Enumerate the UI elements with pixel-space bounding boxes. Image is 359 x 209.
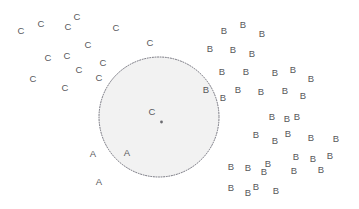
data-point-b: B [300, 90, 307, 101]
data-point-b: B [318, 164, 325, 175]
data-point-b: B [272, 135, 279, 146]
data-point-b: B [308, 73, 315, 84]
data-point-b: B [253, 129, 260, 140]
data-point-b: B [308, 132, 315, 143]
data-point-b: B [245, 187, 252, 198]
data-point-c: C [112, 22, 119, 33]
data-point-c: C [64, 21, 71, 32]
data-point-b: B [269, 111, 276, 122]
data-point-b: B [219, 66, 226, 77]
data-point-b: B [245, 162, 252, 173]
data-point-b: B [259, 28, 266, 39]
data-point-c: C [99, 57, 106, 68]
data-point-b: B [243, 66, 250, 77]
data-point-b: B [235, 84, 242, 95]
data-point-b: B [230, 44, 237, 55]
data-point-b: B [249, 48, 256, 59]
data-point-b: B [228, 182, 235, 193]
data-point-b: B [284, 113, 291, 124]
data-point-b: B [294, 111, 301, 122]
data-point-b: B [327, 150, 334, 161]
scatter-plot-canvas: AAABBBBBBBBBBBBBBBBBBBBBBBBBBBBBBBBBBBBB… [0, 0, 359, 209]
data-point-c: C [44, 52, 51, 63]
data-point-c: C [29, 73, 36, 84]
data-point-b: B [253, 181, 260, 192]
data-point-b: B [203, 84, 210, 95]
region-center-dot [160, 121, 163, 124]
data-point-b: B [290, 64, 297, 75]
data-point-b: B [273, 185, 280, 196]
data-point-c: C [63, 50, 70, 61]
data-point-b: B [258, 86, 265, 97]
data-point-b: B [220, 92, 227, 103]
data-point-c: C [75, 64, 82, 75]
data-point-b: B [333, 133, 340, 144]
data-point-c: C [148, 106, 155, 117]
data-point-b: B [285, 128, 292, 139]
data-point-b: B [291, 165, 298, 176]
data-point-c: C [84, 39, 91, 50]
scatter-plot-figure: AAABBBBBBBBBBBBBBBBBBBBBBBBBBBBBBBBBBBBB… [0, 0, 359, 209]
data-point-b: B [228, 161, 235, 172]
data-point-b: B [272, 67, 279, 78]
data-point-b: B [310, 153, 317, 164]
data-point-c: C [73, 11, 80, 22]
data-point-b: B [261, 166, 268, 177]
data-point-c: C [95, 72, 102, 83]
data-point-a: A [96, 176, 103, 187]
data-point-c: C [146, 37, 153, 48]
data-point-c: C [61, 82, 68, 93]
cluster-region-circle [99, 57, 219, 177]
data-point-c: C [37, 18, 44, 29]
data-point-b: B [240, 19, 247, 30]
data-point-a: A [124, 147, 131, 158]
data-point-b: B [221, 25, 228, 36]
data-point-b: B [282, 85, 289, 96]
data-point-b: B [293, 151, 300, 162]
data-point-b: B [207, 43, 214, 54]
data-point-c: C [17, 25, 24, 36]
data-point-a: A [90, 148, 97, 159]
